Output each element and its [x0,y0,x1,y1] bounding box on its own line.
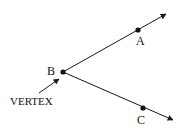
point-c [140,105,145,110]
vertex-label: VERTEX [10,95,53,107]
point-a [135,27,140,32]
vertex-pointer-arrow [39,79,59,93]
label-c: C [137,113,145,127]
ray-ba [63,14,166,72]
angle-diagram: A B C VERTEX [0,0,194,128]
label-a: A [136,34,145,48]
label-b: B [47,64,55,78]
point-b [60,69,65,74]
ray-bc [63,72,173,120]
